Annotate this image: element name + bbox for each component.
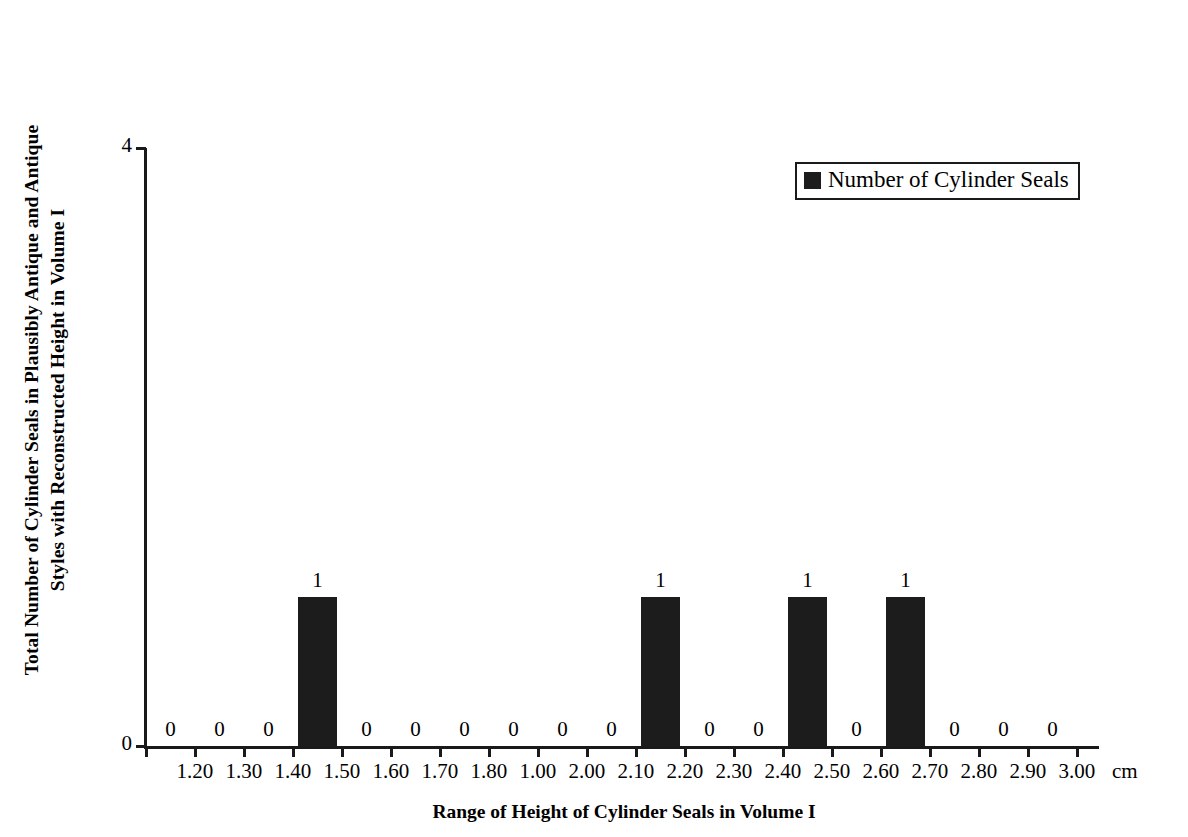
legend-label: Number of Cylinder Seals: [828, 167, 1069, 193]
x-axis-tick: [390, 746, 393, 757]
bar-value-label: 0: [753, 719, 764, 740]
x-axis-tick: [733, 746, 736, 757]
x-axis-tick-label: 1.30: [226, 760, 263, 782]
x-axis-line: [144, 746, 1099, 749]
x-axis-title: Range of Height of Cylinder Seals in Vol…: [0, 800, 1188, 824]
bar-value-label: 0: [410, 719, 421, 740]
chart-legend: Number of Cylinder Seals: [795, 162, 1080, 200]
x-axis-tick: [831, 746, 834, 757]
x-axis-tick: [978, 746, 981, 757]
x-axis-tick: [1076, 746, 1079, 757]
bar: [886, 597, 925, 747]
x-axis-tick-label: 1.20: [177, 760, 214, 782]
x-axis-tick-label: 1.00: [520, 760, 557, 782]
bar-value-label: 0: [459, 719, 470, 740]
y-axis-title-line-2: Styles with Reconstructed Height in Volu…: [45, 125, 71, 675]
bar: [298, 597, 337, 747]
y-axis-tick-label: 0: [122, 733, 133, 754]
x-axis-tick: [782, 746, 785, 757]
x-axis-tick-label: 2.60: [863, 760, 900, 782]
bar-value-label: 1: [312, 570, 323, 591]
x-axis-tick: [145, 746, 148, 757]
bar-value-label: 0: [851, 719, 862, 740]
bar: [641, 597, 680, 747]
x-axis-unit-label: cm: [1112, 760, 1138, 782]
x-axis-tick: [1027, 746, 1030, 757]
bar-value-label: 0: [606, 719, 617, 740]
x-axis-tick: [439, 746, 442, 757]
bar-value-label: 0: [998, 719, 1009, 740]
x-axis-tick: [194, 746, 197, 757]
x-axis-tick-label: 2.70: [912, 760, 949, 782]
x-axis-tick-label: 3.00: [1059, 760, 1096, 782]
x-axis-tick: [635, 746, 638, 757]
bar-value-label: 0: [508, 719, 519, 740]
x-axis-tick-label: 2.00: [569, 760, 606, 782]
bar-value-label: 0: [165, 719, 176, 740]
y-axis-tick: 4: [136, 147, 146, 150]
bar-value-label: 0: [263, 719, 274, 740]
bar-value-label: 1: [900, 570, 911, 591]
bar: [788, 597, 827, 747]
x-axis-tick: [537, 746, 540, 757]
x-axis-tick-label: 1.50: [324, 760, 361, 782]
bar-value-label: 1: [655, 570, 666, 591]
x-axis-tick: [292, 746, 295, 757]
x-axis-tick: [243, 746, 246, 757]
bar-value-label: 0: [361, 719, 372, 740]
bar-value-label: 0: [557, 719, 568, 740]
bar-value-label: 0: [704, 719, 715, 740]
x-axis-tick-label: 1.60: [373, 760, 410, 782]
x-axis-tick: [488, 746, 491, 757]
x-axis-tick: [929, 746, 932, 757]
y-axis-title: Total Number of Cylinder Seals in Plausi…: [0, 0, 90, 800]
y-axis-tick-label: 4: [122, 135, 133, 156]
x-axis-tick: [586, 746, 589, 757]
x-axis-tick-label: 2.30: [716, 760, 753, 782]
x-axis-tick-label: 2.80: [961, 760, 998, 782]
x-axis-tick-label: 1.40: [275, 760, 312, 782]
x-axis-tick-label: 1.80: [471, 760, 508, 782]
x-axis-tick-label: 2.20: [667, 760, 704, 782]
y-axis-line: [144, 148, 147, 746]
x-axis-tick-label: 1.70: [422, 760, 459, 782]
x-axis-tick: [880, 746, 883, 757]
x-axis-tick-label: 2.50: [814, 760, 851, 782]
legend-swatch-icon: [804, 172, 821, 189]
x-axis-tick: [684, 746, 687, 757]
bar-value-label: 0: [214, 719, 225, 740]
bar-value-label: 1: [802, 570, 813, 591]
bar-value-label: 0: [1047, 719, 1058, 740]
bar-value-label: 0: [949, 719, 960, 740]
y-axis-title-line-1: Total Number of Cylinder Seals in Plausi…: [19, 125, 45, 675]
x-axis-tick-label: 2.40: [765, 760, 802, 782]
x-axis-tick: [341, 746, 344, 757]
x-axis-tick-label: 2.90: [1010, 760, 1047, 782]
plot-area: 04 1.201.301.401.501.601.701.801.002.002…: [146, 148, 1099, 746]
x-axis-tick-label: 2.10: [618, 760, 655, 782]
